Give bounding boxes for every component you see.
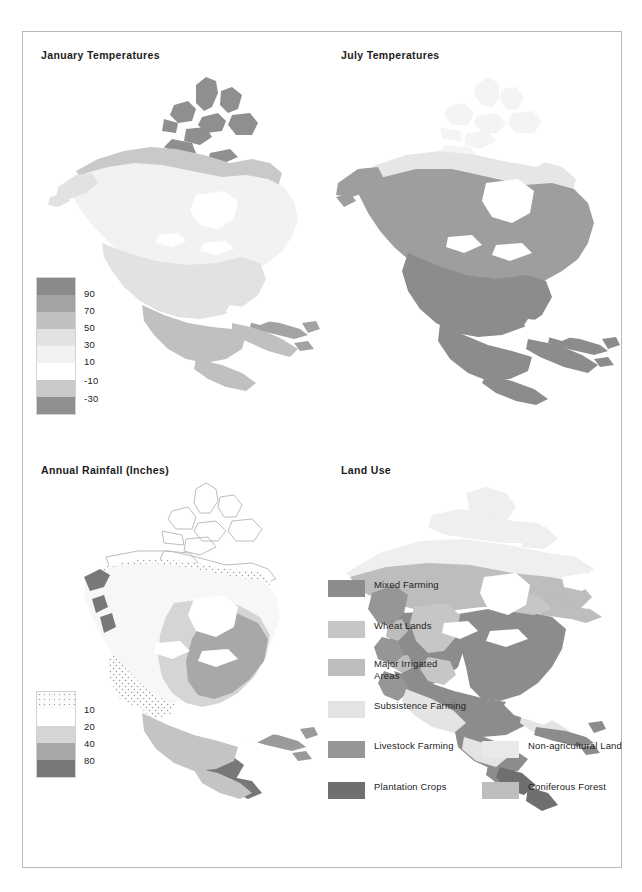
rainfall-ramp-swatches	[36, 691, 76, 778]
legend-land-use: Mixed Farming Wheat Lands Major Irrigate…	[328, 579, 622, 829]
rainfall-tick-10: 10	[84, 704, 95, 715]
map-july-temperatures	[336, 67, 622, 407]
panel-january-temperatures: January Temperatures	[22, 31, 322, 451]
temperature-band	[37, 278, 75, 295]
key-item-major-irrigated-areas: Major Irrigated Areas	[328, 658, 438, 681]
legend-january-temperature: 90 70 50 30 10 -10 -30	[36, 277, 146, 407]
temperature-band	[37, 346, 75, 363]
key-swatch-livestock-farming	[328, 741, 365, 758]
rainfall-band	[37, 743, 75, 760]
key-swatch-subsistence-farming	[328, 701, 365, 718]
key-label-plantation-crops: Plantation Crops	[374, 781, 447, 793]
july-landmass	[336, 77, 620, 405]
key-label-subsistence-farming: Subsistence Farming	[374, 700, 466, 712]
key-item-subsistence-farming: Subsistence Farming	[328, 700, 466, 718]
key-item-plantation-crops: Plantation Crops	[328, 781, 447, 799]
legend-annual-rainfall: 10 20 40 80	[36, 691, 146, 786]
panel-land-use: Land Use	[322, 451, 622, 868]
page-canvas: January Temperatures	[0, 0, 642, 892]
temperature-ramp-swatches	[36, 277, 76, 415]
key-label-coniferous-forest: Coniferous Forest	[528, 781, 606, 793]
rainfall-tick-40: 40	[84, 738, 95, 749]
key-swatch-major-irrigated-areas	[328, 659, 365, 676]
key-swatch-coniferous-forest	[482, 782, 519, 799]
temperature-tick-70: 70	[84, 305, 95, 316]
rainfall-band	[37, 709, 75, 726]
rainfall-band	[37, 726, 75, 743]
rainfall-band-stipple	[37, 692, 75, 709]
temperature-band	[37, 329, 75, 346]
key-swatch-wheat-lands	[328, 621, 365, 638]
temperature-band	[37, 380, 75, 397]
key-label-mixed-farming: Mixed Farming	[374, 579, 439, 591]
key-item-coniferous-forest: Coniferous Forest	[482, 781, 606, 799]
temperature-band	[37, 363, 75, 380]
temperature-tick-90: 90	[84, 288, 95, 299]
key-label-livestock-farming: Livestock Farming	[374, 740, 454, 752]
key-item-wheat-lands: Wheat Lands	[328, 620, 432, 638]
panel-title-july: July Temperatures	[341, 49, 440, 61]
key-item-mixed-farming: Mixed Farming	[328, 579, 439, 597]
temperature-tick-50: 50	[84, 322, 95, 333]
panel-title-january: January Temperatures	[41, 49, 160, 61]
rainfall-tick-80: 80	[84, 755, 95, 766]
temperature-tick-30: 30	[84, 339, 95, 350]
panel-annual-rainfall: Annual Rainfall (Inches)	[22, 451, 322, 868]
panel-july-temperatures: July Temperatures	[322, 31, 622, 451]
key-item-non-agricultural-land: Non-agricultural Land	[482, 740, 622, 758]
temperature-tick-10: 10	[84, 356, 95, 367]
rainfall-tick-20: 20	[84, 721, 95, 732]
key-swatch-non-agricultural-land	[482, 741, 519, 758]
key-swatch-plantation-crops	[328, 782, 365, 799]
temperature-tick-neg30: -30	[84, 393, 99, 404]
panel-title-rainfall: Annual Rainfall (Inches)	[41, 464, 169, 476]
key-swatch-mixed-farming	[328, 580, 365, 597]
temperature-band	[37, 312, 75, 329]
temperature-tick-neg10: -10	[84, 375, 99, 386]
panel-title-landuse: Land Use	[341, 464, 391, 476]
key-label-non-agricultural-land: Non-agricultural Land	[528, 740, 622, 752]
temperature-band	[37, 295, 75, 312]
temperature-band	[37, 397, 75, 414]
rainfall-band	[37, 760, 75, 777]
key-label-major-irrigated-areas: Major Irrigated Areas	[374, 658, 438, 681]
key-label-wheat-lands: Wheat Lands	[374, 620, 432, 632]
key-item-livestock-farming: Livestock Farming	[328, 740, 454, 758]
